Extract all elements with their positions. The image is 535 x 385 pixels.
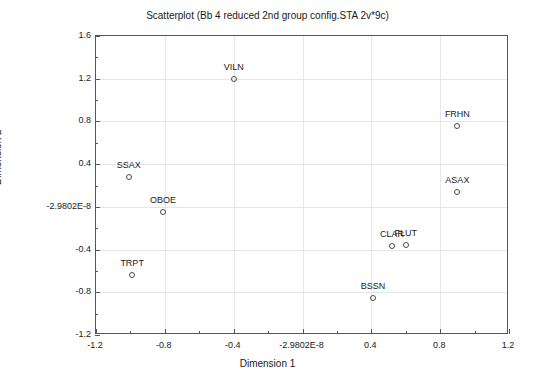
data-point-label: FRHN: [445, 109, 470, 119]
y-axis-tick-label: 0.8: [78, 115, 91, 125]
gridline-horizontal: [96, 164, 507, 165]
y-axis-tick: [95, 121, 100, 122]
y-axis-minor-tick: [95, 314, 98, 315]
y-axis-tick: [95, 292, 100, 293]
x-axis-tick-label: 0.4: [364, 340, 377, 350]
data-point-label: SSAX: [117, 160, 141, 170]
x-axis-minor-tick: [130, 331, 131, 334]
y-axis-tick-label: -1.2: [75, 329, 91, 339]
y-axis-minor-tick: [95, 57, 98, 58]
x-axis-minor-tick: [268, 331, 269, 334]
x-axis-tick-label: -0.8: [156, 340, 172, 350]
data-point-label: BSSN: [361, 281, 386, 291]
data-point-label: OBOE: [150, 195, 176, 205]
x-axis-tick: [509, 329, 510, 334]
y-axis-minor-tick: [95, 143, 98, 144]
y-axis-tick-label: -2.9802E-8: [46, 201, 91, 211]
y-axis-minor-tick: [95, 186, 98, 187]
data-point-marker: [403, 242, 409, 248]
gridline-horizontal: [96, 79, 507, 80]
x-axis-tick: [371, 329, 372, 334]
x-axis-tick: [165, 329, 166, 334]
data-point-marker: [231, 76, 237, 82]
y-axis-tick: [95, 335, 100, 336]
y-axis-tick: [95, 207, 100, 208]
data-point-marker: [129, 272, 135, 278]
y-axis-tick-label: 1.2: [78, 73, 91, 83]
scatterplot-chart: Scatterplot (Bb 4 reduced 2nd group conf…: [0, 0, 535, 385]
data-point-marker: [454, 123, 460, 129]
x-axis-tick: [303, 329, 304, 334]
y-axis-tick: [95, 250, 100, 251]
x-axis-tick-label: -0.4: [225, 340, 241, 350]
data-point-label: TRPT: [120, 258, 144, 268]
x-axis-label: Dimension 1: [0, 358, 535, 369]
y-axis-label: Dimension 2: [0, 129, 3, 185]
gridline-vertical: [165, 36, 166, 333]
x-axis-tick: [234, 329, 235, 334]
y-axis-tick-label: -0.8: [75, 286, 91, 296]
gridline-vertical: [440, 36, 441, 333]
y-axis-tick: [95, 164, 100, 165]
x-axis-tick-label: 1.2: [502, 340, 515, 350]
y-axis-tick: [95, 36, 100, 37]
x-axis-tick-label: 0.8: [433, 340, 446, 350]
y-axis-minor-tick: [95, 100, 98, 101]
x-axis-tick: [440, 329, 441, 334]
y-axis-tick-label: 0.4: [78, 158, 91, 168]
data-point-marker: [454, 189, 460, 195]
gridline-horizontal: [96, 292, 507, 293]
data-point-label: ASAX: [445, 175, 469, 185]
y-axis-minor-tick: [95, 228, 98, 229]
x-axis-minor-tick: [337, 331, 338, 334]
data-point-label: FLUT: [395, 228, 418, 238]
y-axis-minor-tick: [95, 271, 98, 272]
gridline-horizontal: [96, 250, 507, 251]
y-axis-tick-label: -0.4: [75, 244, 91, 254]
x-axis-tick-label: -2.9802E-8: [279, 340, 324, 350]
x-axis-tick-label: -1.2: [87, 340, 103, 350]
x-axis-minor-tick: [406, 331, 407, 334]
x-axis-minor-tick: [199, 331, 200, 334]
data-point-marker: [389, 243, 395, 249]
gridline-horizontal: [96, 121, 507, 122]
data-point-marker: [370, 295, 376, 301]
y-axis-tick: [95, 79, 100, 80]
chart-title: Scatterplot (Bb 4 reduced 2nd group conf…: [0, 10, 535, 21]
gridline-horizontal: [96, 207, 507, 208]
plot-area: VILNFRHNSSAXASAXOBOECLARFLUTTRPTBSSN: [95, 35, 508, 334]
data-point-label: VILN: [224, 62, 244, 72]
x-axis-minor-tick: [475, 331, 476, 334]
data-point-marker: [126, 174, 132, 180]
gridline-vertical: [303, 36, 304, 333]
x-axis-tick: [96, 329, 97, 334]
y-axis-tick-label: 1.6: [78, 30, 91, 40]
